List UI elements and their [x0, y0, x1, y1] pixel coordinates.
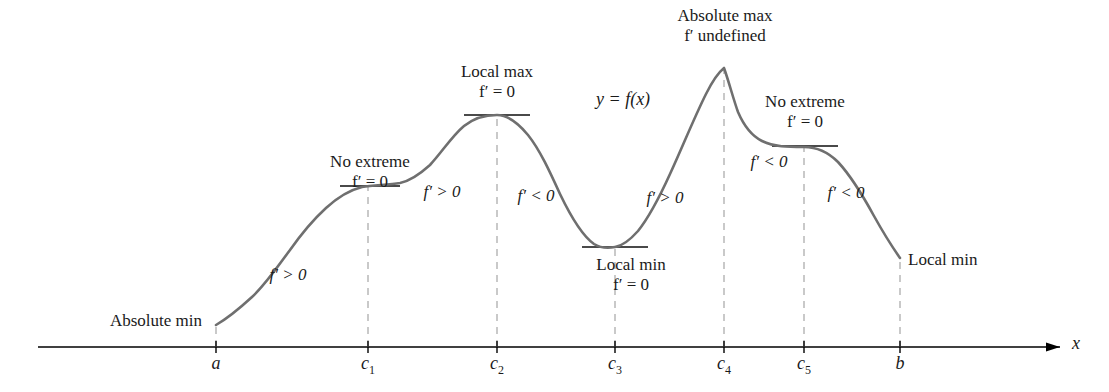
tick-label-sub: 3	[616, 363, 622, 377]
tick-label-c4: c4	[704, 353, 744, 377]
derivative-sign-text: f′ < 0	[828, 183, 865, 202]
tick-label-text: c	[608, 353, 616, 373]
derivative-sign-c4-c5: f′ < 0	[729, 152, 809, 172]
annotation-no-extreme-c1-line1: No extreme	[330, 152, 410, 171]
tick-label-text: b	[896, 353, 905, 373]
tick-label-text: c	[717, 353, 725, 373]
tick-label-text: c	[797, 353, 805, 373]
derivative-sign-text: f′ < 0	[751, 152, 788, 171]
derivative-sign-c2-c3: f′ < 0	[496, 186, 576, 206]
derivative-sign-text: f′ < 0	[518, 186, 555, 205]
derivative-sign-text: f′ > 0	[647, 188, 684, 207]
calculus-extrema-figure: Absolute max f′ undefined Local max f′ =…	[0, 0, 1109, 392]
annotation-absolute-max-line2: f′ undefined	[640, 26, 810, 46]
tick-label-b: b	[880, 353, 920, 377]
annotation-no-extreme-c5-line2: f′ = 0	[720, 112, 890, 132]
annotation-local-max-line2: f′ = 0	[412, 82, 582, 102]
tick-label-c5: c5	[784, 353, 824, 377]
tick-label-a: a	[196, 353, 236, 377]
tick-label-sub: 5	[805, 363, 811, 377]
annotation-local-min-c3: Local min f′ = 0	[546, 255, 716, 295]
annotation-absolute-max: Absolute max f′ undefined	[640, 6, 810, 46]
x-axis-label: x	[1072, 333, 1096, 354]
annotation-absolute-max-line1: Absolute max	[678, 6, 773, 25]
annotation-local-max-line1: Local max	[461, 62, 533, 81]
tick-label-text: a	[212, 353, 221, 373]
x-axis-label-text: x	[1072, 333, 1080, 353]
tick-label-sub: 4	[725, 363, 731, 377]
derivative-sign-c1-c2: f′ > 0	[402, 182, 482, 202]
derivative-sign-c5-b: f′ < 0	[806, 183, 886, 203]
annotation-local-min-c3-line1: Local min	[596, 255, 665, 274]
derivative-sign-a-c1: f′ > 0	[248, 265, 328, 285]
annotation-no-extreme-c5-line1: No extreme	[765, 92, 845, 111]
derivative-sign-text: f′ > 0	[424, 182, 461, 201]
function-label: y = f(x)	[596, 89, 706, 110]
tick-label-c3: c3	[595, 353, 635, 377]
tick-label-sub: 1	[369, 363, 375, 377]
annotation-no-extreme-c5: No extreme f′ = 0	[720, 92, 890, 132]
derivative-sign-text: f′ > 0	[270, 265, 307, 284]
x-axis-arrow-icon	[1046, 342, 1060, 351]
annotation-local-min-c3-line2: f′ = 0	[546, 275, 716, 295]
annotation-absolute-min-label: Absolute min	[110, 311, 202, 330]
annotation-local-max: Local max f′ = 0	[412, 62, 582, 102]
annotation-absolute-min: Absolute min	[86, 311, 226, 331]
tick-label-c1: c1	[348, 353, 388, 377]
tick-label-text: c	[490, 353, 498, 373]
annotation-local-min-b: Local min	[908, 250, 1028, 270]
tick-label-sub: 2	[498, 363, 504, 377]
tick-label-c2: c2	[477, 353, 517, 377]
derivative-sign-c3-c4: f′ > 0	[625, 188, 705, 208]
tick-label-text: c	[361, 353, 369, 373]
function-label-text: y = f(x)	[596, 89, 650, 109]
annotation-local-min-b-label: Local min	[908, 250, 977, 269]
